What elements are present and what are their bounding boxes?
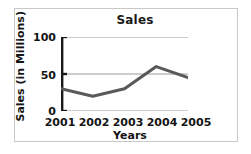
chart-figure: Sales Sales (in Millions) 100 50 0 2001 … <box>0 0 251 154</box>
data-series-line <box>61 67 188 97</box>
gridlines <box>61 37 188 111</box>
y-tick-label-100: 100 <box>26 31 56 44</box>
plot-area <box>61 37 188 111</box>
line-chart-svg <box>61 37 188 111</box>
x-axis-label: Years <box>60 129 200 142</box>
axis-lines <box>61 37 67 111</box>
y-axis-label: Sales (in Millions) <box>14 16 27 122</box>
chart-title: Sales <box>60 13 210 27</box>
y-tick-label-50: 50 <box>26 69 56 82</box>
